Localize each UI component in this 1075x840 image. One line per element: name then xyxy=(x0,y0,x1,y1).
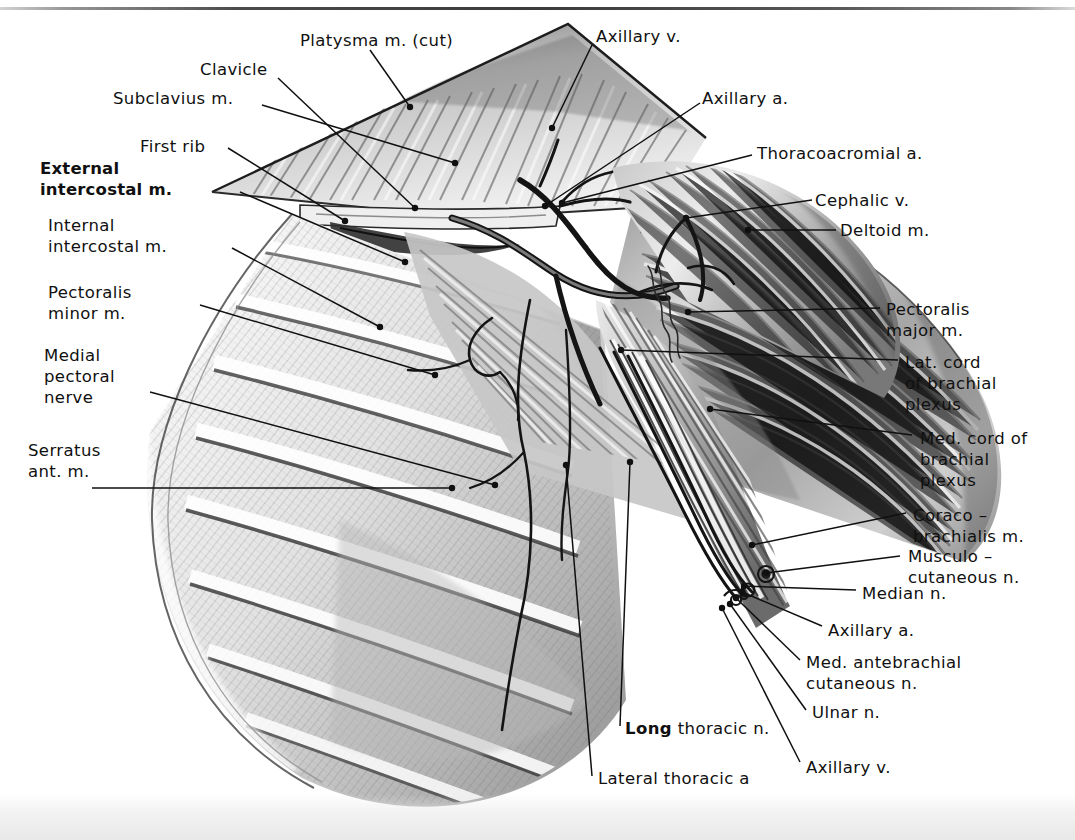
label-thoracoacromial: Thoracoacromial a. xyxy=(757,143,923,164)
label-platysma: Platysma m. (cut) xyxy=(300,30,453,51)
label-cephalic-v: Cephalic v. xyxy=(815,190,909,211)
label-pect-minor: Pectoralis minor m. xyxy=(48,282,132,324)
scan-bottom-shadow xyxy=(0,794,1075,840)
label-musculocutaneous: Musculo – cutaneous n. xyxy=(908,546,1020,588)
label-first-rib: First rib xyxy=(140,136,205,157)
label-axillary-a-low: Axillary a. xyxy=(828,620,914,641)
label-lateral-thoracic: Lateral thoracic a xyxy=(598,768,750,789)
label-ulnar-n: Ulnar n. xyxy=(812,702,880,723)
label-clavicle: Clavicle xyxy=(200,59,268,80)
anatomy-illustration xyxy=(0,0,1075,840)
label-axillary-a-top: Axillary a. xyxy=(702,88,788,109)
label-long-thoracic: Long thoracic n. xyxy=(625,718,770,739)
label-med-antebrachial: Med. antebrachial cutaneous n. xyxy=(806,652,962,694)
label-med-cord: Med. cord of brachial plexus xyxy=(920,428,1027,491)
label-subclavius: Subclavius m. xyxy=(113,88,233,109)
label-deltoid: Deltoid m. xyxy=(840,220,930,241)
label-pect-major: Pectoralis major m. xyxy=(886,299,970,341)
label-axillary-v-top: Axillary v. xyxy=(596,26,681,47)
label-med-pect-nerve: Medial pectoral nerve xyxy=(44,345,115,408)
scan-top-edge-artifact xyxy=(0,7,1075,10)
label-axillary-v-low: Axillary v. xyxy=(806,757,891,778)
label-serratus: Serratus ant. m. xyxy=(28,440,101,482)
label-coracobrachialis: Coraco – brachialis m. xyxy=(913,505,1024,547)
label-long-thoracic-emphasis: Long xyxy=(625,719,672,738)
label-int-intercostal: Internal intercostal m. xyxy=(48,215,167,257)
label-lat-cord: Lat. cord of brachial plexus xyxy=(905,352,997,415)
label-ext-intercostal: External intercostal m. xyxy=(40,158,172,200)
anatomical-plate: Platysma m. (cut)ClavicleSubclavius m.Fi… xyxy=(0,0,1075,840)
label-median-n: Median n. xyxy=(862,583,947,604)
